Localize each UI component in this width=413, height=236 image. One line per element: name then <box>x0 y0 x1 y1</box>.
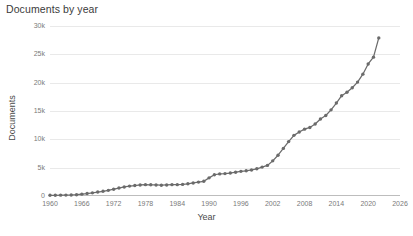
data-point-marker <box>287 140 290 143</box>
data-point-marker <box>91 191 94 194</box>
data-point-marker <box>207 176 210 179</box>
data-point-marker <box>366 62 369 65</box>
x-axis-tick-label: 1978 <box>138 200 154 207</box>
data-point-marker <box>133 184 136 187</box>
x-axis-tick-label: 1996 <box>233 200 249 207</box>
data-point-marker <box>170 183 173 186</box>
data-point-marker <box>154 183 157 186</box>
series-line <box>50 38 379 195</box>
data-point-marker <box>319 117 322 120</box>
chart-container: Documents by year Documents 05k10k15k20k… <box>0 0 413 236</box>
y-axis-tick-label: 20k <box>0 79 45 86</box>
x-axis-tick-label: 1972 <box>106 200 122 207</box>
data-point-marker <box>101 190 104 193</box>
data-point-marker <box>64 193 67 196</box>
data-point-marker <box>80 192 83 195</box>
x-axis-tick-label: 1966 <box>74 200 90 207</box>
series-documents <box>50 26 400 196</box>
x-axis-label-wrap: Year <box>0 212 413 222</box>
data-point-marker <box>138 183 141 186</box>
data-point-marker <box>48 194 51 197</box>
data-point-marker <box>191 181 194 184</box>
data-point-marker <box>266 164 269 167</box>
data-point-marker <box>276 154 279 157</box>
x-axis-tick-label: 2020 <box>360 200 376 207</box>
data-point-marker <box>239 170 242 173</box>
data-point-marker <box>324 114 327 117</box>
data-point-marker <box>117 186 120 189</box>
data-point-marker <box>250 168 253 171</box>
data-point-marker <box>308 126 311 129</box>
data-point-marker <box>234 171 237 174</box>
data-point-marker <box>181 183 184 186</box>
data-point-marker <box>356 80 359 83</box>
data-point-marker <box>313 122 316 125</box>
data-point-marker <box>245 169 248 172</box>
y-axis-label: Documents <box>7 78 17 158</box>
y-axis-tick-label: 25k <box>0 50 45 57</box>
data-point-marker <box>54 194 57 197</box>
data-point-marker <box>223 172 226 175</box>
data-point-marker <box>340 94 343 97</box>
data-point-marker <box>85 192 88 195</box>
data-point-marker <box>271 159 274 162</box>
x-axis-tick-label: 1990 <box>201 200 217 207</box>
data-point-marker <box>282 147 285 150</box>
y-axis-tick-label: 10k <box>0 135 45 142</box>
y-axis-tick-label: 0 <box>0 192 45 199</box>
x-axis-tick-label: 2008 <box>297 200 313 207</box>
x-axis-tick-label: 2026 <box>392 200 408 207</box>
data-point-marker <box>345 91 348 94</box>
data-point-marker <box>372 55 375 58</box>
data-point-marker <box>292 134 295 137</box>
y-axis-tick-label: 15k <box>0 107 45 114</box>
data-point-marker <box>112 188 115 191</box>
x-axis-tick-label: 2014 <box>329 200 345 207</box>
data-point-marker <box>144 183 147 186</box>
data-point-marker <box>149 183 152 186</box>
data-point-marker <box>303 127 306 130</box>
data-point-marker <box>298 130 301 133</box>
data-point-marker <box>377 36 380 39</box>
data-point-marker <box>361 72 364 75</box>
x-axis-tick-label: 2002 <box>265 200 281 207</box>
data-point-marker <box>197 180 200 183</box>
data-point-marker <box>335 101 338 104</box>
x-axis-tick-label: 1984 <box>169 200 185 207</box>
y-axis-tick-label: 30k <box>0 22 45 29</box>
data-point-marker <box>160 184 163 187</box>
data-point-marker <box>202 180 205 183</box>
x-axis-tick-label: 1960 <box>42 200 58 207</box>
data-point-marker <box>123 185 126 188</box>
data-point-marker <box>229 171 232 174</box>
data-point-marker <box>165 183 168 186</box>
data-point-marker <box>70 193 73 196</box>
data-point-marker <box>107 189 110 192</box>
data-point-marker <box>329 108 332 111</box>
data-point-marker <box>213 173 216 176</box>
data-point-marker <box>255 167 258 170</box>
data-point-marker <box>75 193 78 196</box>
data-point-marker <box>186 182 189 185</box>
plot-area <box>50 26 400 196</box>
data-point-marker <box>96 190 99 193</box>
x-axis-label: Year <box>197 212 215 222</box>
chart-title: Documents by year <box>6 3 98 15</box>
data-point-marker <box>218 172 221 175</box>
data-point-marker <box>176 183 179 186</box>
data-point-marker <box>351 86 354 89</box>
cut-off-caption-strip <box>0 228 413 236</box>
data-point-marker <box>59 193 62 196</box>
data-point-marker <box>260 165 263 168</box>
data-point-marker <box>128 184 131 187</box>
y-axis-tick-label: 5k <box>0 164 45 171</box>
